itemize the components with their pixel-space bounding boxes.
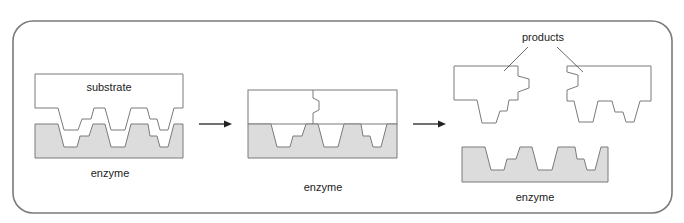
products-label: products [522,31,565,43]
product-left-shape [454,66,529,123]
enzyme-diagram: substrate enzyme enzyme products enzyme [0,0,684,223]
panel-cleaving: enzyme [248,90,397,193]
enzyme-label: enzyme [304,181,343,193]
enzyme-label: enzyme [91,167,130,179]
right-arrow-icon [199,121,232,128]
panel-bound: substrate enzyme [35,74,183,179]
substrate-shape [248,90,397,124]
enzyme-shape [248,124,397,158]
product-right-shape [567,66,651,122]
panel-released: products enzyme [454,31,651,203]
enzyme-label: enzyme [516,191,555,203]
right-arrow-icon [413,121,446,128]
enzyme-shape [462,147,608,182]
substrate-label: substrate [86,81,131,93]
